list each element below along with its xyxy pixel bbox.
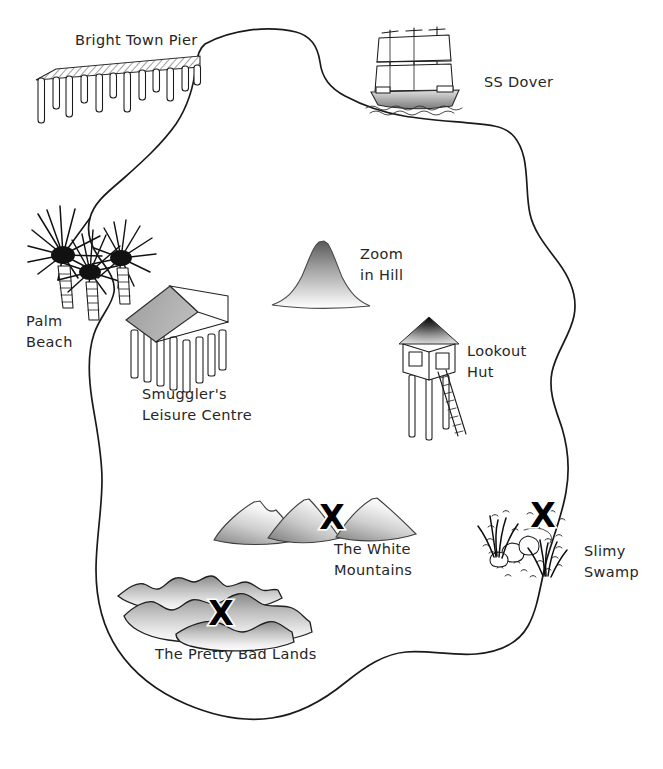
bright-town-pier: Bright Town Pier [36, 32, 201, 123]
beach-label-line2: Beach [26, 334, 73, 350]
ship-sails [375, 35, 453, 91]
pier-deck [36, 56, 200, 80]
x-mark-white-mountains: X [319, 498, 344, 537]
swamp-label-line2: Swamp [584, 564, 639, 580]
pier-label: Bright Town Pier [75, 32, 198, 48]
treasure-map: Bright Town Pier SS Dover [0, 0, 663, 769]
palm-trunk-1 [58, 266, 73, 308]
hill-label-line1: Zoom [360, 246, 403, 262]
swamp-label-line1: Slimy [584, 543, 626, 559]
ss-dover: SS Dover [366, 27, 553, 115]
leisure-label-line2: Leisure Centre [142, 407, 252, 423]
beach-label-line1: Palm [26, 313, 63, 329]
map-canvas: Bright Town Pier SS Dover [0, 0, 663, 769]
hut-label-line1: Lookout [467, 343, 527, 359]
hut-label-line2: Hut [467, 364, 494, 380]
x-mark-pretty-bad-lands: X [208, 594, 233, 633]
palm-trunk-2 [86, 282, 99, 320]
mountains-label-line2: Mountains [334, 562, 412, 578]
ship-label: SS Dover [484, 74, 553, 90]
mountains-label-line1: The White [333, 541, 411, 557]
hill-label-line2: in Hill [360, 267, 403, 283]
x-mark-slimy-swamp: X [530, 496, 555, 535]
